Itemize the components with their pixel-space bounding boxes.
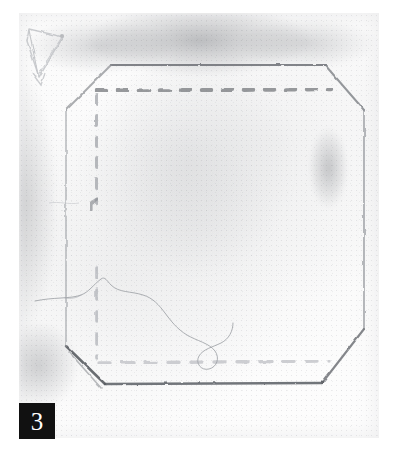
panel-outline-path bbox=[66, 65, 364, 389]
loose-thread bbox=[35, 278, 233, 369]
figure-canvas: 3 bbox=[0, 0, 413, 455]
scanned-plate bbox=[19, 13, 379, 438]
sketch-ink-layer bbox=[19, 13, 379, 438]
figure-number-badge: 3 bbox=[19, 403, 55, 439]
figure-number-label: 3 bbox=[31, 409, 44, 434]
stitch-line-top bbox=[97, 89, 331, 91]
stitch-line-bottom bbox=[99, 361, 329, 363]
stitch-line-left bbox=[91, 95, 97, 358]
arrow-annotation-icon bbox=[27, 29, 64, 85]
stray-pencil-mark bbox=[49, 202, 79, 203]
